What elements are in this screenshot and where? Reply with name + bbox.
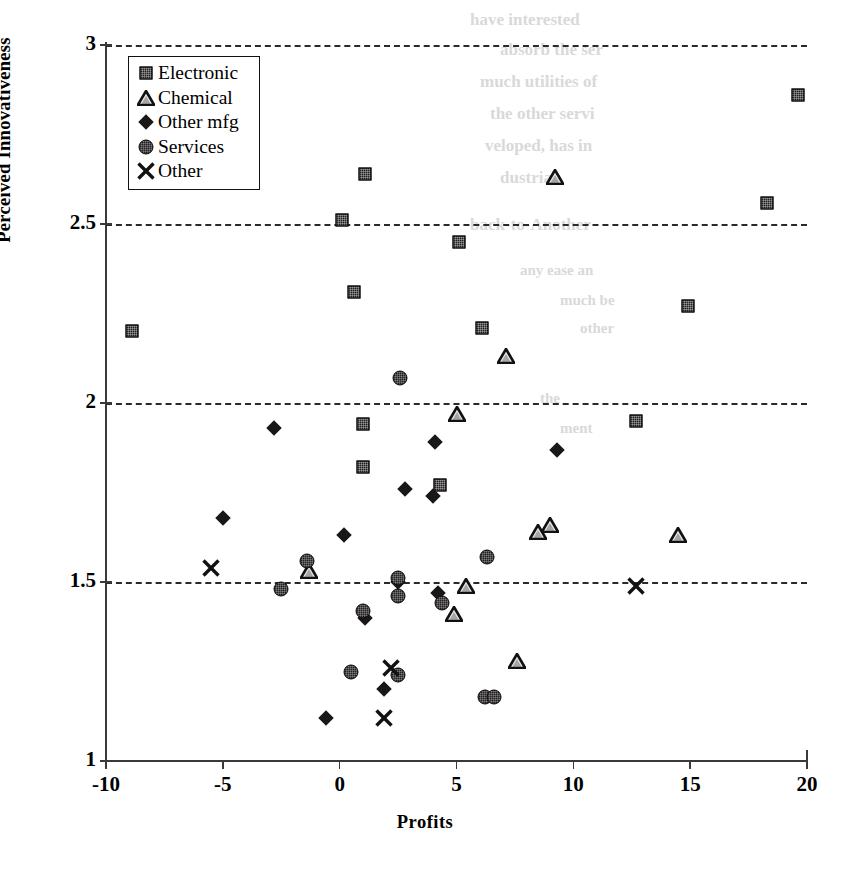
data-point-electronic — [347, 286, 360, 299]
data-point-services — [344, 664, 359, 679]
x-tick--5 — [222, 760, 224, 769]
data-point-electronic — [791, 89, 804, 102]
data-point-services — [391, 571, 406, 586]
data-point-chemical — [448, 406, 466, 422]
data-point-chemical — [541, 517, 559, 533]
y-tick-label-text: 3 — [86, 31, 97, 56]
data-point-electronic — [452, 235, 465, 248]
x-cross-icon — [135, 160, 157, 182]
legend-item-label: Electronic — [158, 62, 238, 84]
scatter-plot-figure: have interestedabsorb the sermuch utilit… — [0, 0, 850, 874]
x-tick-label: 0 — [305, 772, 375, 797]
legend-item-chemical: Chemical — [135, 86, 254, 111]
x-tick-10 — [573, 760, 575, 769]
data-point-electronic — [681, 300, 694, 313]
data-point-other-mfg — [318, 710, 334, 726]
legend: ElectronicChemicalOther mfgServicesOther — [128, 56, 260, 190]
data-point-electronic — [336, 214, 349, 227]
data-point-electronic — [630, 414, 643, 427]
outline-triangle-icon — [135, 87, 157, 109]
data-point-electronic — [357, 461, 370, 474]
x-tick-0 — [339, 760, 341, 769]
x-tick-label: 5 — [422, 772, 492, 797]
x-tick--10 — [105, 760, 107, 769]
data-point-other-mfg — [337, 528, 353, 544]
x-tick-label: -10 — [71, 772, 141, 797]
data-point-services — [391, 589, 406, 604]
data-point-electronic — [761, 196, 774, 209]
data-point-services — [356, 603, 371, 618]
outline-triangle-icon-glyph — [137, 90, 155, 106]
data-point-other — [374, 708, 394, 728]
filled-circle-icon-glyph — [139, 139, 154, 154]
x-tick-20 — [806, 760, 808, 769]
data-point-electronic — [359, 167, 372, 180]
filled-square-icon-glyph — [140, 67, 153, 80]
y-tick-label-text: 1 — [86, 747, 97, 772]
x-cross-icon-glyph — [136, 161, 156, 181]
data-point-services — [486, 689, 501, 704]
x-axis-title: Profits — [0, 812, 850, 833]
data-point-other-mfg — [376, 682, 392, 698]
data-point-other-mfg — [215, 510, 231, 526]
filled-diamond-icon-glyph — [138, 114, 154, 130]
data-point-services — [274, 582, 289, 597]
data-point-services — [299, 553, 314, 568]
data-point-chemical — [669, 527, 687, 543]
data-point-other — [201, 558, 221, 578]
y-tick-label-text: 1.5 — [70, 568, 96, 593]
data-point-chemical — [457, 578, 475, 594]
legend-item-other-mfg: Other mfg — [135, 110, 254, 135]
filled-square-icon — [135, 62, 157, 84]
data-point-other — [381, 658, 401, 678]
filled-circle-icon — [135, 136, 157, 158]
data-point-services — [479, 549, 494, 564]
y-tick-label-text: 2.5 — [70, 210, 96, 235]
data-point-other — [626, 576, 646, 596]
data-point-other-mfg — [266, 420, 282, 436]
data-point-services — [435, 596, 450, 611]
y-axis-title: Perceived Innovativeness — [0, 0, 15, 300]
data-point-other-mfg — [428, 435, 444, 451]
legend-item-label: Chemical — [158, 87, 233, 109]
x-tick-label: -5 — [188, 772, 258, 797]
filled-diamond-icon — [135, 111, 157, 133]
legend-item-other: Other — [135, 159, 254, 184]
bleed-through-line: have interested — [470, 10, 580, 30]
legend-item-label: Other — [158, 160, 202, 182]
data-point-electronic — [476, 321, 489, 334]
data-point-other-mfg — [397, 481, 413, 497]
data-point-services — [393, 370, 408, 385]
data-point-chemical — [508, 653, 526, 669]
legend-item-label: Other mfg — [158, 111, 239, 133]
x-tick-label: 20 — [772, 772, 842, 797]
data-point-other-mfg — [549, 442, 565, 458]
legend-item-electronic: Electronic — [135, 61, 254, 86]
x-tick-15 — [689, 760, 691, 769]
data-point-chemical — [497, 348, 515, 364]
y-tick-label-text: 2 — [86, 389, 97, 414]
x-tick-label: 15 — [655, 772, 725, 797]
x-tick-label: 10 — [538, 772, 608, 797]
legend-item-label: Services — [158, 136, 224, 158]
x-tick-5 — [456, 760, 458, 769]
data-point-electronic — [125, 325, 138, 338]
data-point-electronic — [357, 418, 370, 431]
legend-item-services: Services — [135, 135, 254, 160]
data-point-chemical — [546, 169, 564, 185]
